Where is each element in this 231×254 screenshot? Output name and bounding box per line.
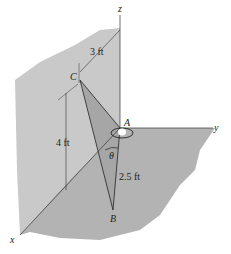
x-label: x	[9, 234, 15, 245]
pivot-hole	[118, 129, 126, 136]
point-c-label: C	[70, 71, 77, 82]
theta-label: θ	[109, 150, 114, 161]
statics-diagram: z y x C A B 3 ft 4 ft 2.5 ft θ	[0, 0, 231, 254]
point-b-label: B	[110, 213, 116, 224]
z-label: z	[117, 3, 122, 14]
dim-ab-label: 2.5 ft	[119, 171, 140, 182]
dim-4ft-label: 4 ft	[56, 137, 70, 148]
y-label: y	[213, 122, 219, 133]
point-a-label: A	[123, 117, 131, 128]
dim-3ft-label: 3 ft	[90, 46, 104, 57]
